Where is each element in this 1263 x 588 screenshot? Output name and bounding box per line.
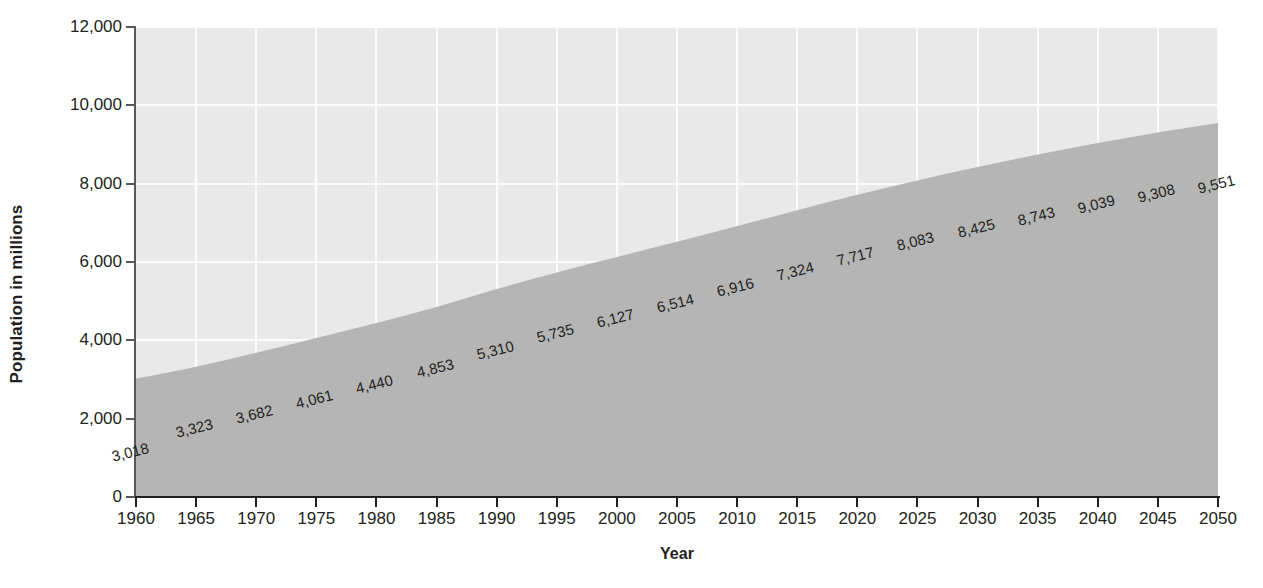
x-axis-tick-label: 1980: [358, 509, 396, 529]
x-axis-tick-label: 2040: [1079, 509, 1117, 529]
x-axis-tick-label: 2010: [718, 509, 756, 529]
x-axis-tick: [1097, 498, 1099, 507]
x-axis-tick-label: 2025: [899, 509, 937, 529]
y-axis-tick: [126, 339, 135, 341]
x-axis-tick-label: 1970: [237, 509, 275, 529]
y-axis-tick-label: 8,000: [79, 174, 122, 194]
y-axis-title: Population in millions: [0, 0, 34, 588]
x-axis-tick: [255, 498, 257, 507]
y-axis-tick: [126, 418, 135, 420]
x-axis-tick-label: 2050: [1199, 509, 1237, 529]
x-axis-tick: [436, 498, 438, 507]
y-axis-tick-label: 12,000: [70, 17, 122, 37]
x-axis-tick-label: 2035: [1019, 509, 1057, 529]
x-axis-tick: [676, 498, 678, 507]
x-axis-tick: [916, 498, 918, 507]
x-axis-tick-label: 2020: [838, 509, 876, 529]
x-axis-tick-label: 1990: [478, 509, 516, 529]
x-axis-tick: [856, 498, 858, 507]
x-axis-tick-label: 1975: [297, 509, 335, 529]
y-axis-tick: [126, 496, 135, 498]
y-axis-tick: [126, 183, 135, 185]
y-axis-tick-label: 2,000: [79, 409, 122, 429]
y-axis-tick: [126, 26, 135, 28]
x-axis-tick-label: 2000: [598, 509, 636, 529]
x-axis-title: Year: [136, 545, 1218, 563]
x-axis-tick: [556, 498, 558, 507]
x-axis-tick-label: 1995: [538, 509, 576, 529]
x-axis-tick: [736, 498, 738, 507]
area-series: [136, 27, 1218, 497]
x-axis-tick: [796, 498, 798, 507]
x-axis-tick: [496, 498, 498, 507]
x-axis-tick-label: 1985: [418, 509, 456, 529]
x-axis-tick: [1157, 498, 1159, 507]
y-axis-tick: [126, 261, 135, 263]
y-axis-tick-label: 6,000: [79, 252, 122, 272]
x-axis-tick-label: 1965: [177, 509, 215, 529]
x-axis-tick: [315, 498, 317, 507]
plot-area: [136, 27, 1218, 497]
x-axis-tick: [1217, 498, 1219, 507]
population-area-chart: Population in millions 02,0004,0006,0008…: [0, 0, 1263, 588]
x-axis-tick-label: 2030: [959, 509, 997, 529]
x-axis-tick: [616, 498, 618, 507]
y-axis-tick: [126, 104, 135, 106]
x-axis-tick-label: 1960: [117, 509, 155, 529]
y-axis-tick-label: 10,000: [70, 95, 122, 115]
x-axis-tick-label: 2015: [778, 509, 816, 529]
x-axis-tick: [1037, 498, 1039, 507]
x-axis-tick-label: 2045: [1139, 509, 1177, 529]
x-axis-tick: [195, 498, 197, 507]
y-axis-tick-label: 0: [113, 487, 122, 507]
y-axis-tick-label: 4,000: [79, 330, 122, 350]
x-axis-tick-label: 2005: [658, 509, 696, 529]
x-axis-tick: [375, 498, 377, 507]
x-axis-tick: [135, 498, 137, 507]
x-axis-tick: [977, 498, 979, 507]
